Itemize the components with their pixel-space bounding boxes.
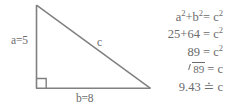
eq5-approx-equals-operator: ≐ — [201, 80, 218, 94]
leg-b-label: b=8 — [76, 92, 93, 104]
hypotenuse-label: c — [97, 36, 102, 48]
square-root-icon: 89 — [189, 61, 204, 78]
leg-a-label: a=5 — [11, 34, 28, 46]
eq2-left-side: 25+64 = — [168, 27, 213, 41]
eq1-equals-operator: = — [203, 10, 213, 24]
equation-line-pythagorean-identity: a2+b2= c2 — [133, 9, 223, 26]
equation-block: a2+b2= c2 25+64 = c2 89 = c2 89 = c 9.43… — [133, 9, 223, 96]
equation-line-square-root-step: 89 = c — [133, 61, 223, 78]
eq1-plus-operator: + — [185, 10, 192, 24]
eq3-exponent-c: 2 — [219, 43, 223, 53]
right-angle-marker-icon — [37, 79, 46, 89]
eq5-value: 9.43 — [179, 80, 201, 94]
eq5-term-c: c — [217, 80, 223, 94]
equation-line-approx-result: 9.43 ≐ c — [133, 79, 223, 96]
equation-line-summed-squares: 89 = c2 — [133, 44, 223, 61]
pythagorean-theorem-figure: a=5 b=8 c a2+b2= c2 25+64 = c2 89 = c2 8… — [0, 0, 228, 111]
eq1-exponent-c: 2 — [219, 8, 223, 18]
eq4-equals-c: = c — [204, 62, 223, 76]
equation-line-substituted-squares: 25+64 = c2 — [133, 26, 223, 43]
eq3-left-side: 89 = — [187, 45, 213, 59]
eq2-exponent-c: 2 — [219, 25, 223, 35]
